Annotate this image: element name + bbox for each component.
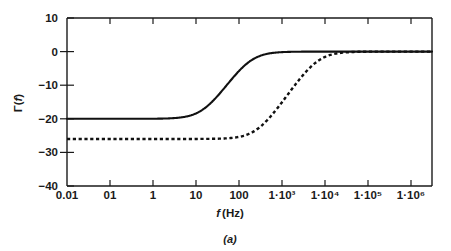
x-tick-label: 10: [190, 189, 203, 201]
y-axis-title-close: ): [12, 94, 24, 98]
y-tick-label: −30: [38, 146, 58, 158]
x-axis-title-symbol: f: [216, 207, 221, 219]
y-tick-label: −20: [38, 113, 58, 125]
x-tick-labels: 0.01 01 1 10 100 1·10³ 1·10⁴ 1·10⁵ 1·10⁶: [56, 189, 425, 201]
figure-container: 10 0 −10 −20 −30 −40 0.01 01 1 10 100 1·…: [0, 0, 451, 251]
figure-caption: (a): [223, 233, 237, 245]
y-axis-title-gamma: Γ(: [12, 101, 24, 112]
x-tick-label: 01: [104, 189, 117, 201]
plot-frame: [67, 18, 432, 186]
chart-canvas: 10 0 −10 −20 −30 −40 0.01 01 1 10 100 1·…: [0, 0, 451, 251]
x-tick-label: 100: [229, 189, 248, 201]
x-tick-label: 1·10⁶: [397, 189, 425, 201]
series-group: [67, 52, 432, 139]
x-tick-label: 1·10⁴: [311, 189, 340, 201]
y-tick-labels: 10 0 −10 −20 −30 −40: [38, 12, 58, 192]
x-tick-label: 0.01: [56, 189, 79, 201]
series-solid-curve: [67, 52, 432, 119]
x-tick-label: 1·10⁵: [354, 189, 382, 201]
x-tick-label: 1: [150, 189, 157, 201]
x-axis-title-unit: (Hz): [222, 207, 244, 219]
y-tick-label: 10: [45, 12, 58, 24]
x-axis-ticks: [110, 18, 411, 186]
x-tick-label: 1·10³: [269, 189, 296, 201]
series-dashed-curve: [67, 52, 432, 139]
y-tick-label: −10: [38, 79, 58, 91]
y-tick-label: 0: [52, 46, 58, 58]
y-axis-title: Γ(f): [12, 94, 24, 113]
x-axis-title: f(Hz): [216, 207, 244, 219]
